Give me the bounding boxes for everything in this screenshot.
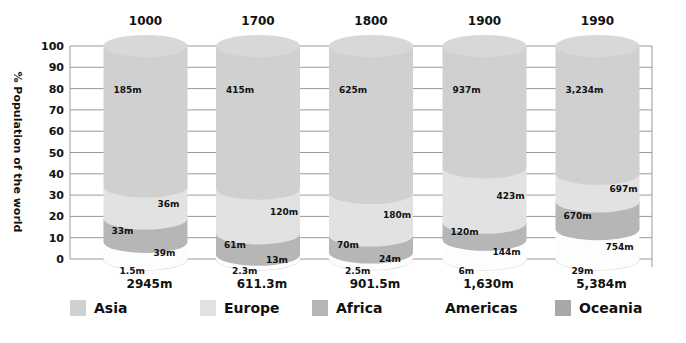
year-label: 1900 [468, 14, 501, 28]
segment-label-oceania: 6m [459, 266, 475, 276]
segment-label-americas: 24m [379, 254, 401, 264]
year-label: 1800 [354, 14, 387, 28]
legend-swatch [200, 300, 216, 316]
segment-label-asia: 625m [339, 85, 367, 95]
total-population: 611.3m [237, 277, 287, 291]
legend-item-africa: Africa [312, 300, 382, 316]
segment-label-oceania: 2.3m [232, 266, 257, 276]
segment-label-europe: 120m [270, 207, 298, 217]
legend-item-americas: Americas [437, 300, 518, 316]
segment-label-asia: 185m [114, 85, 142, 95]
cylinder-segment [104, 46, 188, 198]
segment-label-africa: 33m [112, 226, 134, 236]
segment-label-oceania: 1.5m [120, 266, 145, 276]
total-population: 901.5m [350, 277, 400, 291]
y-axis: 0102030405060708090100 [41, 40, 64, 266]
legend-label: Africa [336, 300, 382, 316]
segment-label-africa: 670m [564, 211, 592, 221]
y-tick-label: 60 [49, 125, 65, 138]
y-tick-label: 0 [56, 253, 64, 266]
legend-label: Asia [94, 300, 127, 316]
legend-item-europe: Europe [200, 300, 280, 316]
cylinder-1000: 1000185m36m33m39m1.5m2945m [104, 14, 188, 291]
y-tick-label: 50 [49, 147, 65, 160]
legend-item-oceania: Oceania [555, 300, 642, 316]
legend-item-asia: Asia [70, 300, 127, 316]
segment-label-africa: 61m [224, 240, 246, 250]
cylinder-1800: 1800625m180m70m24m2.5m901.5m [329, 14, 413, 291]
segment-label-europe: 423m [497, 191, 525, 201]
segment-label-americas: 13m [266, 255, 288, 265]
y-tick-label: 70 [49, 104, 65, 117]
legend-swatch [70, 300, 86, 316]
segment-label-asia: 415m [226, 85, 254, 95]
legend-label: Americas [445, 300, 518, 316]
y-tick-label: 10 [49, 232, 65, 245]
total-population: 2945m [127, 277, 173, 291]
segment-label-europe: 36m [158, 199, 180, 209]
legend-label: Europe [224, 300, 280, 316]
segment-label-africa: 120m [451, 227, 479, 237]
legend-swatch [555, 300, 571, 316]
legend-label: Oceania [579, 300, 642, 316]
cylinder-segment [556, 46, 640, 185]
segment-label-americas: 754m [606, 242, 634, 252]
cylinder-1990: 19903,234m697m670m754m29m5,384m [556, 14, 640, 291]
y-tick-label: 20 [49, 210, 65, 223]
y-tick-label: 40 [49, 168, 65, 181]
y-tick-label: 30 [49, 189, 65, 202]
year-label: 1990 [581, 14, 614, 28]
segment-label-asia: 3,234m [566, 85, 604, 95]
cylinder-1900: 1900937m423m120m144m6m1,630m [443, 14, 527, 291]
legend-swatch [312, 300, 328, 316]
segment-label-oceania: 29m [572, 266, 594, 276]
y-tick-label: 100 [41, 40, 64, 53]
cylinder-segment [443, 46, 527, 178]
segment-label-africa: 70m [337, 240, 359, 250]
segment-label-americas: 144m [493, 247, 521, 257]
cylinder-segment [216, 46, 300, 200]
cylinder-1700: 1700415m120m61m13m2.3m611.3m [216, 14, 300, 291]
year-label: 1000 [129, 14, 162, 28]
cylinder-segment [329, 46, 413, 204]
y-axis-label: % Population of the world [11, 72, 24, 233]
cylinders: 1000185m36m33m39m1.5m2945m1700415m120m61… [104, 14, 640, 291]
segment-label-europe: 697m [610, 184, 638, 194]
y-tick-label: 80 [49, 83, 65, 96]
segment-label-europe: 180m [383, 210, 411, 220]
year-label: 1700 [241, 14, 274, 28]
segment-label-oceania: 2.5m [345, 266, 370, 276]
segment-label-asia: 937m [453, 85, 481, 95]
total-population: 5,384m [576, 277, 626, 291]
y-tick-label: 90 [49, 61, 65, 74]
population-cylinder-chart: 0102030405060708090100 % Population of t… [0, 0, 686, 343]
segment-label-americas: 39m [154, 248, 176, 258]
total-population: 1,630m [463, 277, 513, 291]
